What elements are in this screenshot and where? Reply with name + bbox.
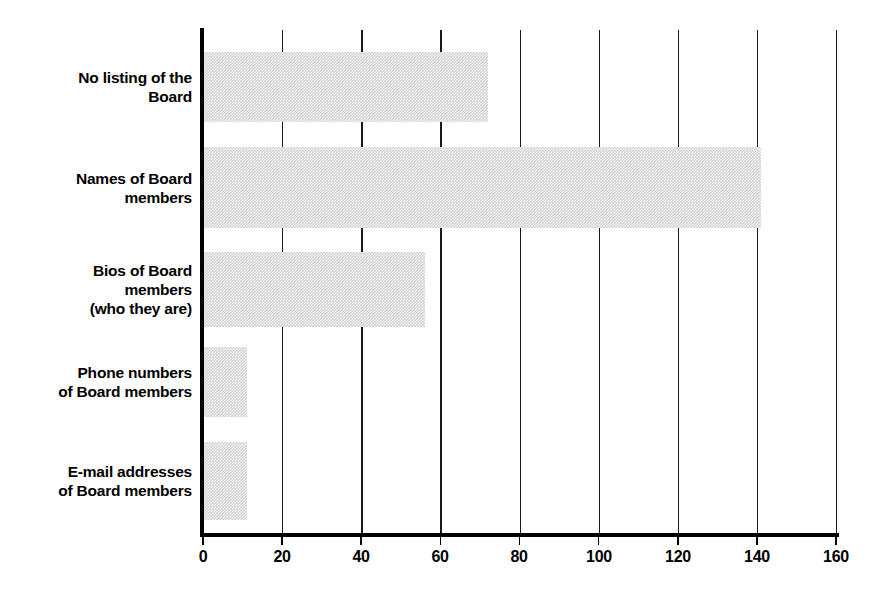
xtick-160	[835, 534, 837, 545]
category-label: Phone numbers of Board members	[58, 347, 192, 417]
xtick-120	[677, 534, 679, 545]
bar-email-addresses-of-board-members	[203, 442, 247, 520]
xtick-60	[440, 534, 442, 545]
category-label: No listing of the Board	[78, 52, 192, 122]
bar-bios-of-board-members	[203, 252, 425, 327]
xtick-label-60: 60	[431, 548, 448, 566]
xtick-0	[202, 534, 204, 545]
plot-area	[203, 30, 836, 534]
xtick-100	[598, 534, 600, 545]
gridline-120	[678, 30, 679, 534]
xtick-140	[756, 534, 758, 545]
xtick-40	[360, 534, 362, 545]
category-label: Names of Board members	[76, 147, 192, 228]
xtick-label-100: 100	[586, 548, 612, 566]
category-label: E-mail addresses of Board members	[58, 442, 192, 520]
xtick-label-20: 20	[273, 548, 290, 566]
xtick-label-160: 160	[823, 548, 849, 566]
xtick-label-40: 40	[352, 548, 369, 566]
bar-no-listing-of-the-board	[203, 52, 488, 122]
category-label: Bios of Board members (who they are)	[90, 252, 192, 327]
bar-phone-numbers-of-board-members	[203, 347, 247, 417]
gridline-140	[757, 30, 758, 534]
xtick-label-140: 140	[744, 548, 770, 566]
gridline-80	[520, 30, 521, 534]
bar-names-of-board-members	[203, 147, 761, 228]
xtick-label-120: 120	[665, 548, 691, 566]
y-axis-line	[200, 28, 204, 537]
xtick-20	[281, 534, 283, 545]
bar-chart: No listing of the Board Names of Board m…	[0, 0, 890, 598]
gridline-100	[599, 30, 600, 534]
xtick-80	[519, 534, 521, 545]
gridline-160	[836, 30, 837, 534]
xtick-label-80: 80	[510, 548, 527, 566]
xtick-label-0: 0	[199, 548, 208, 566]
